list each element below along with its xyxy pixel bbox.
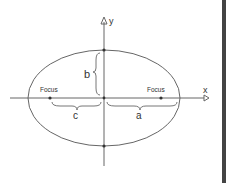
focus-right-label: Focus <box>147 86 165 93</box>
semi-major-label: a <box>136 110 142 121</box>
center-point <box>103 97 106 100</box>
focus-left-label: Focus <box>40 86 58 93</box>
semi-minor-label: b <box>84 68 90 80</box>
focal-distance-label: c <box>73 110 78 121</box>
vertex-top <box>102 48 105 51</box>
x-axis-label: x <box>203 85 208 95</box>
x-axis-arrow-icon <box>204 95 209 101</box>
y-axis-label: y <box>109 16 114 26</box>
brace-c <box>52 102 101 110</box>
focus-left-point <box>48 96 51 99</box>
brace-b <box>93 53 100 95</box>
ellipse-diagram: x y Focus Focus b c a <box>0 0 228 183</box>
vertex-bottom <box>102 144 105 147</box>
right-border-bar <box>222 0 226 183</box>
brace-a <box>107 102 177 110</box>
focus-right-point <box>159 96 162 99</box>
